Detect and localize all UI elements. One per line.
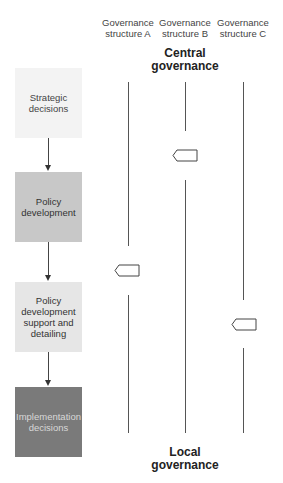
marker-a-icon — [114, 264, 140, 277]
column-header-c-line1: Governance — [212, 17, 274, 28]
column-header-c-line2: structure C — [212, 28, 274, 39]
central-governance-label: Central governance — [135, 47, 235, 73]
box-support-line3: support and — [21, 317, 75, 328]
line-b-upper — [185, 82, 186, 131]
line-c-lower — [243, 348, 244, 433]
box-policy-development: Policy development — [15, 172, 82, 242]
column-header-a-line1: Governance — [97, 17, 159, 28]
arrow-2 — [48, 242, 49, 276]
box-policy-support: Policy development support and detailing — [15, 282, 82, 352]
box-policy-line1: Policy — [21, 196, 75, 207]
column-header-a: Governance structure A — [97, 17, 159, 39]
box-support-line4: detailing — [21, 328, 75, 339]
line-a-upper — [128, 82, 129, 246]
box-strategic-decisions: Strategic decisions — [15, 68, 82, 138]
arrowhead-1-icon — [45, 165, 51, 171]
local-line2: governance — [135, 459, 235, 472]
central-line2: governance — [135, 60, 235, 73]
line-c-upper — [243, 82, 244, 300]
box-strategic-line2: decisions — [29, 103, 69, 114]
arrowhead-3-icon — [45, 380, 51, 386]
column-header-b: Governance structure B — [154, 17, 216, 39]
local-governance-label: Local governance — [135, 446, 235, 472]
column-header-a-line2: structure A — [97, 28, 159, 39]
box-policy-line2: development — [21, 207, 75, 218]
box-implementation-line1: Implementation — [16, 411, 81, 422]
column-header-b-line1: Governance — [154, 17, 216, 28]
box-support-line2: development — [21, 306, 75, 317]
arrow-3 — [48, 352, 49, 381]
arrowhead-2-icon — [45, 275, 51, 281]
box-strategic-line1: Strategic — [29, 92, 69, 103]
column-header-c: Governance structure C — [212, 17, 274, 39]
line-b-lower — [185, 180, 186, 433]
box-implementation-line2: decisions — [16, 422, 81, 433]
box-implementation-decisions: Implementation decisions — [15, 387, 82, 457]
line-a-lower — [128, 295, 129, 433]
marker-b-icon — [172, 149, 198, 162]
box-support-line1: Policy — [21, 295, 75, 306]
column-header-b-line2: structure B — [154, 28, 216, 39]
arrow-1 — [48, 138, 49, 166]
marker-c-icon — [231, 318, 257, 331]
